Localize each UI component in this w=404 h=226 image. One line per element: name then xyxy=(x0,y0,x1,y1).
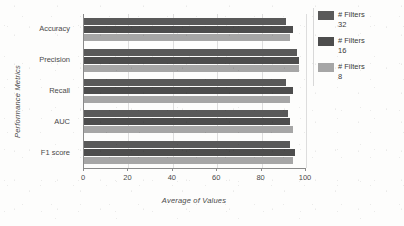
bar xyxy=(84,34,290,41)
legend-swatch xyxy=(318,37,334,46)
bar-group xyxy=(84,18,306,41)
x-axis-tick-label: 60 xyxy=(201,173,231,182)
bar xyxy=(84,157,293,164)
x-axis-tick xyxy=(127,168,128,171)
bar xyxy=(84,141,290,148)
legend-item[interactable]: # Filters16 xyxy=(318,36,402,55)
y-axis-category-label: Precision xyxy=(39,55,70,64)
bar xyxy=(84,57,299,64)
bar xyxy=(84,26,293,33)
bar xyxy=(84,65,299,72)
bar xyxy=(84,149,295,156)
bar xyxy=(84,110,288,117)
bar xyxy=(84,118,290,125)
y-axis-category-labels: AccuracyPrecisionRecallAUCF1 score xyxy=(0,14,78,168)
bar-group xyxy=(84,79,306,102)
bar xyxy=(84,96,290,103)
x-axis-tick xyxy=(216,168,217,171)
bar-group xyxy=(84,141,306,164)
legend-swatch xyxy=(318,63,334,72)
legend: # Filters32# Filters16# Filters8 xyxy=(318,10,402,88)
legend-item[interactable]: # Filters32 xyxy=(318,10,402,29)
x-axis-tick-label: 100 xyxy=(290,173,320,182)
y-axis-category-label: AUC xyxy=(54,117,70,126)
x-axis-tick xyxy=(172,168,173,171)
gridline xyxy=(306,14,307,168)
x-axis-tick xyxy=(261,168,262,171)
legend-item[interactable]: # Filters8 xyxy=(318,62,402,81)
x-axis-tick xyxy=(305,168,306,171)
bar xyxy=(84,126,293,133)
x-axis-line xyxy=(83,168,306,169)
bar xyxy=(84,79,286,86)
legend-label: # Filters32 xyxy=(338,10,365,29)
y-axis-category-label: Recall xyxy=(49,86,70,95)
bar xyxy=(84,18,286,25)
legend-label: # Filters8 xyxy=(338,62,365,81)
bar xyxy=(84,49,297,56)
y-axis-category-label: F1 score xyxy=(41,148,70,157)
bar-group xyxy=(84,49,306,72)
bar-chart: Performance Metrics AccuracyPrecisionRec… xyxy=(0,0,404,226)
bar-group xyxy=(84,110,306,133)
legend-divider xyxy=(313,8,314,86)
x-axis-tick xyxy=(83,168,84,171)
plot-area xyxy=(83,14,306,168)
x-axis-tick-label: 0 xyxy=(68,173,98,182)
x-axis-tick-label: 20 xyxy=(112,173,142,182)
x-axis-tick-label: 40 xyxy=(157,173,187,182)
x-axis-tick-label: 80 xyxy=(246,173,276,182)
bar xyxy=(84,87,293,94)
legend-swatch xyxy=(318,11,334,20)
y-axis-category-label: Accuracy xyxy=(39,24,70,33)
legend-label: # Filters16 xyxy=(338,36,365,55)
x-axis-title: Average of Values xyxy=(83,196,305,205)
